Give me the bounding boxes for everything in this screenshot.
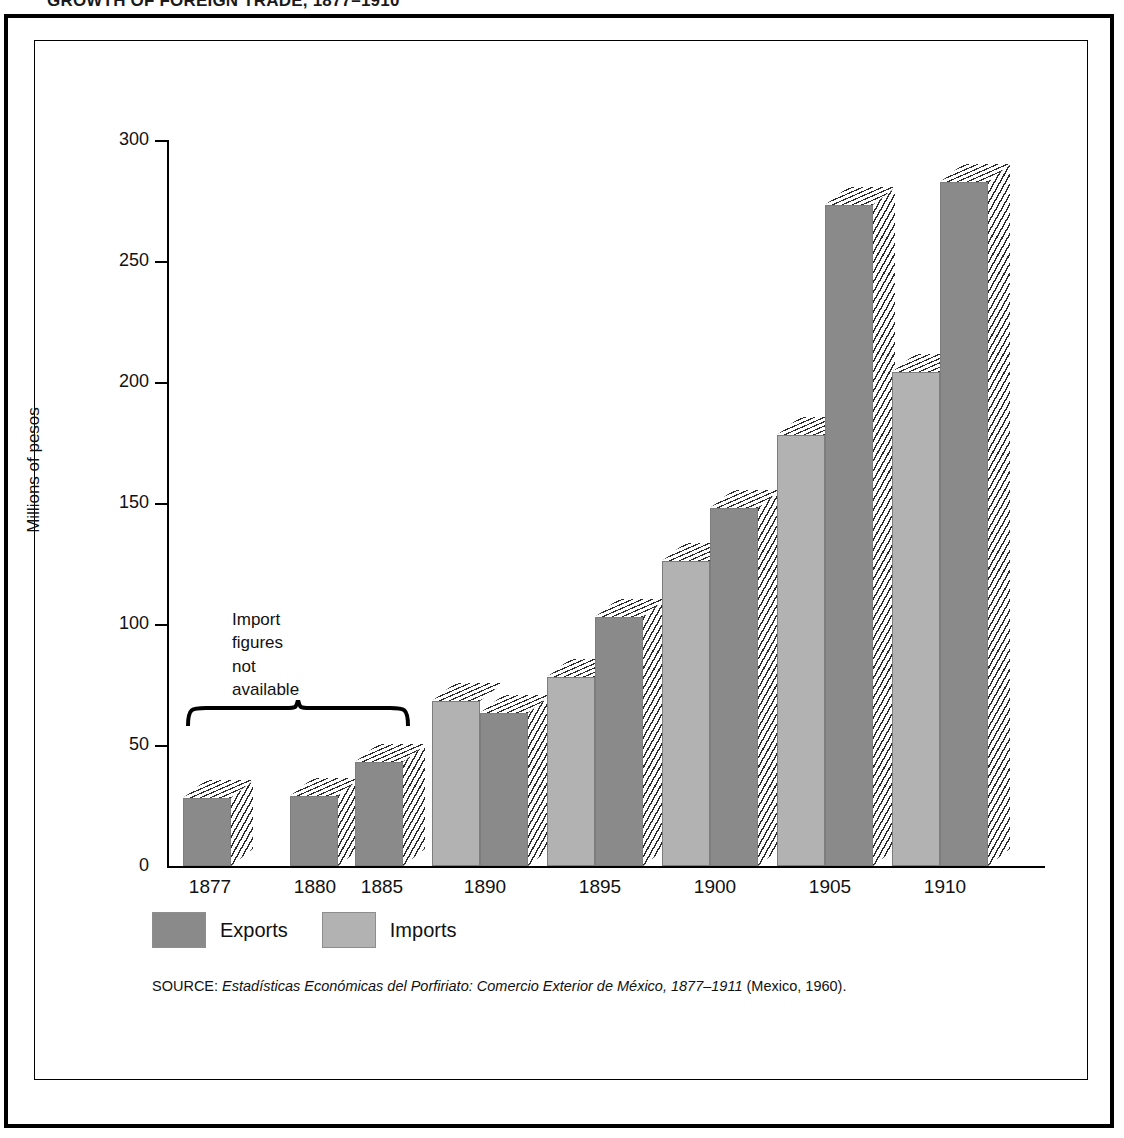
y-tick-label-100: 100 — [105, 613, 149, 634]
source-citation-title: Estadísticas Económicas del Porfiriato: … — [222, 978, 742, 994]
annotation-line-2: figures — [232, 631, 372, 654]
y-tick-label-50: 50 — [105, 734, 149, 755]
bar-exports-1905[interactable] — [825, 205, 873, 866]
page-title: GROWTH OF FOREIGN TRADE, 1877–1910 — [47, 0, 400, 11]
y-tick-300 — [155, 140, 169, 142]
annotation-line-4: available — [232, 678, 372, 701]
legend-item-imports[interactable]: Imports — [322, 912, 457, 948]
bar-front-face — [710, 508, 758, 866]
y-tick-100 — [155, 624, 169, 626]
bar-front-face — [595, 617, 643, 866]
annotation-line-1: Import — [232, 608, 372, 631]
bar-front-face — [355, 762, 403, 866]
bar-front-face — [290, 796, 338, 866]
x-tick-label-1895: 1895 — [555, 876, 645, 898]
x-axis-line — [167, 866, 1045, 868]
bar-exports-1885[interactable] — [355, 762, 403, 866]
bar-imports-1910[interactable] — [892, 372, 940, 866]
bar-exports-1895[interactable] — [595, 617, 643, 866]
annotation-import-figures-not-available: Import figures not available — [232, 608, 372, 702]
bar-front-face — [662, 561, 710, 866]
figure-title-band: GROWTH OF FOREIGN TRADE, 1877–1910 — [0, 0, 1124, 14]
legend-label-imports: Imports — [390, 919, 457, 942]
bar-front-face — [892, 372, 940, 866]
bar-exports-1880[interactable] — [290, 796, 338, 866]
x-tick-label-1885: 1885 — [337, 876, 427, 898]
y-tick-250 — [155, 261, 169, 263]
bar-exports-1877[interactable] — [183, 798, 231, 866]
bar-front-face — [777, 435, 825, 866]
source-note: SOURCE: Estadísticas Económicas del Porf… — [152, 978, 846, 994]
bar-front-face — [825, 205, 873, 866]
source-prefix: SOURCE: — [152, 978, 218, 994]
legend-swatch-imports — [322, 912, 376, 948]
chart-legend: Exports Imports — [152, 912, 457, 948]
bar-front-face — [940, 182, 988, 866]
x-tick-label-1900: 1900 — [670, 876, 760, 898]
bar-side-face — [403, 745, 425, 866]
bar-exports-1910[interactable] — [940, 182, 988, 866]
x-tick-label-1910: 1910 — [900, 876, 990, 898]
x-tick-label-1905: 1905 — [785, 876, 875, 898]
legend-swatch-exports — [152, 912, 206, 948]
x-tick-label-1877: 1877 — [165, 876, 255, 898]
bar-front-face — [547, 677, 595, 866]
bar-imports-1905[interactable] — [777, 435, 825, 866]
annotation-line-3: not — [232, 655, 372, 678]
y-tick-200 — [155, 382, 169, 384]
source-publisher: (Mexico, 1960). — [747, 978, 847, 994]
y-tick-label-200: 200 — [105, 371, 149, 392]
bar-side-face — [988, 165, 1010, 866]
y-axis-title: Millions of pesos — [24, 370, 44, 570]
bar-imports-1890[interactable] — [432, 701, 480, 866]
bar-front-face — [432, 701, 480, 866]
bar-imports-1900[interactable] — [662, 561, 710, 866]
bar-exports-1900[interactable] — [710, 508, 758, 866]
y-tick-50 — [155, 745, 169, 747]
y-tick-label-250: 250 — [105, 250, 149, 271]
x-tick-label-1890: 1890 — [440, 876, 530, 898]
y-tick-label-0: 0 — [105, 855, 149, 876]
legend-item-exports[interactable]: Exports — [152, 912, 288, 948]
legend-label-exports: Exports — [220, 919, 288, 942]
y-tick-label-150: 150 — [105, 492, 149, 513]
bar-exports-1890[interactable] — [480, 713, 528, 866]
y-tick-150 — [155, 503, 169, 505]
bar-imports-1895[interactable] — [547, 677, 595, 866]
bar-front-face — [480, 713, 528, 866]
curly-brace-icon — [186, 700, 410, 726]
bar-front-face — [183, 798, 231, 866]
y-tick-label-300: 300 — [105, 129, 149, 150]
